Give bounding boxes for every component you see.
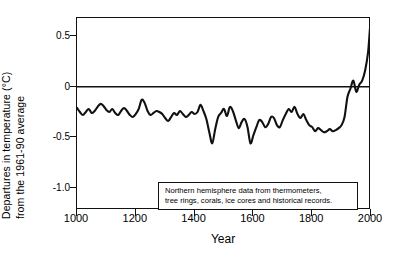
y-axis-title-line-2: from the 1961-90 average: [14, 14, 28, 219]
annotation-line-2: tree rings, corals, ice cores and histor…: [165, 196, 352, 206]
x-tick-mark-4: [311, 209, 312, 216]
x-tick-mark-1: [135, 209, 136, 216]
y-tick-label-2: -0.5: [53, 131, 70, 142]
x-axis-title: Year: [76, 232, 370, 246]
x-tick-mark-5: [370, 209, 371, 216]
x-tick-mark-2: [194, 209, 195, 216]
y-axis-title: Departures in temperature (°C) from the …: [0, 0, 46, 215]
y-tick-label-0: 0.5: [56, 30, 70, 41]
x-tick-mark-3: [252, 209, 253, 216]
x-tick-mark-0: [76, 209, 77, 216]
annotation-line-1: Northern hemisphere data from thermomete…: [165, 186, 352, 196]
temperature-anomaly-chart: Departures in temperature (°C) from the …: [0, 0, 396, 262]
plot-area: [76, 17, 370, 209]
data-line-svg: [77, 18, 370, 209]
y-axis-title-line-1: Departures in temperature (°C): [0, 14, 14, 219]
annotation-box: Northern hemisphere data from thermomete…: [158, 182, 358, 210]
temperature-series-line: [77, 24, 370, 144]
y-tick-label-3: -1.0: [53, 181, 70, 192]
